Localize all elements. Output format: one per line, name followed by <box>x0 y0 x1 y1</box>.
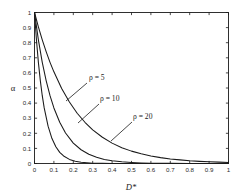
x-tick-label: 0.4 <box>108 166 117 173</box>
figure-container: 00.10.20.30.40.50.60.70.80.91 00.10.20.3… <box>0 0 241 196</box>
y-tick-label: 0.8 <box>23 39 32 46</box>
y-tick-label: 0.2 <box>23 130 32 137</box>
y-tick-label: 1 <box>28 9 32 16</box>
annotation-label: ρ = 20 <box>133 112 153 121</box>
x-tick-label: 0.7 <box>166 166 175 173</box>
y-tick-label: 0.7 <box>23 54 32 61</box>
x-tick-label: 1 <box>227 166 231 173</box>
annotation-labels: ρ = 5ρ = 10ρ = 20 <box>89 73 153 121</box>
y-tick-label: 0.6 <box>23 69 32 76</box>
annotation-label: ρ = 5 <box>89 73 105 82</box>
x-tick-label: 0.9 <box>205 166 214 173</box>
plot-frame <box>35 13 229 164</box>
x-axis-label: D* <box>125 182 137 192</box>
x-tick-label: 0 <box>33 166 37 173</box>
y-tick-label: 0.4 <box>23 99 32 106</box>
y-tick-label: 0.5 <box>23 84 32 91</box>
x-tick-label: 0.6 <box>147 166 156 173</box>
x-tick-label: 0.8 <box>185 166 194 173</box>
curve-5 <box>35 13 229 163</box>
y-axis-label: α <box>11 83 16 93</box>
y-tick-label: 0.3 <box>23 114 32 121</box>
y-tick-label: 0.9 <box>23 24 32 31</box>
annotation-label: ρ = 10 <box>100 94 120 103</box>
x-tick-label: 0.5 <box>127 166 136 173</box>
data-curves <box>35 13 229 164</box>
x-axis-ticks: 00.10.20.30.40.50.60.70.80.91 <box>33 13 231 173</box>
x-tick-label: 0.3 <box>88 166 97 173</box>
y-tick-label: 0.1 <box>23 145 32 152</box>
curve-20 <box>35 13 229 164</box>
curve-10 <box>35 13 229 164</box>
y-tick-label: 0 <box>28 160 32 167</box>
x-tick-label: 0.2 <box>69 166 78 173</box>
x-tick-label: 0.1 <box>50 166 59 173</box>
alpha-vs-dstar-chart: 00.10.20.30.40.50.60.70.80.91 00.10.20.3… <box>0 0 241 196</box>
